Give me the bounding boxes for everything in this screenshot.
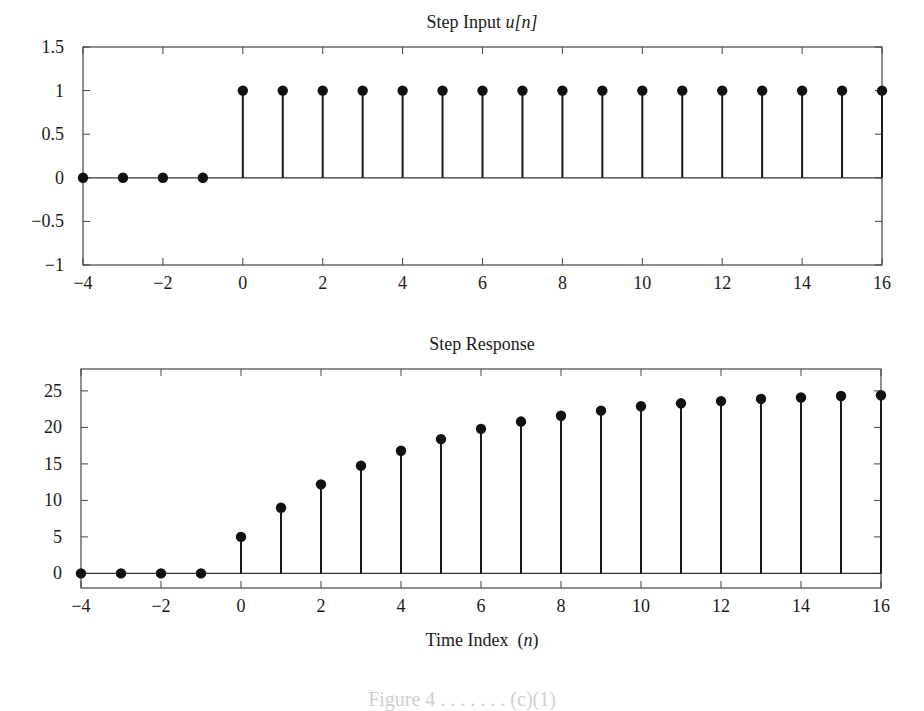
y-tick-label: 25 xyxy=(44,381,62,401)
y-tick-label: 1 xyxy=(55,81,64,101)
stem-marker xyxy=(597,85,607,95)
x-tick-label: −2 xyxy=(151,596,170,616)
stem-marker xyxy=(837,85,847,95)
stem-marker xyxy=(517,85,527,95)
x-tick-label: 8 xyxy=(557,596,566,616)
stem-marker xyxy=(596,405,606,415)
x-axis-label-text: Time Index xyxy=(426,630,509,650)
stem-marker xyxy=(238,85,248,95)
stem-marker xyxy=(796,392,806,402)
stem-marker xyxy=(318,85,328,95)
x-tick-label: 8 xyxy=(558,273,567,293)
stem-marker xyxy=(116,568,126,578)
y-tick-label: 5 xyxy=(53,527,62,547)
stem-marker xyxy=(278,85,288,95)
x-tick-label: 10 xyxy=(632,596,650,616)
stem-marker xyxy=(196,568,206,578)
stem-marker xyxy=(316,479,326,489)
x-axis-label: Time Index (n) xyxy=(332,630,632,651)
top-plot: −4−202468101214161.510.50−0.5−1 xyxy=(31,37,891,293)
x-tick-label: 0 xyxy=(237,596,246,616)
y-tick-label: 15 xyxy=(44,454,62,474)
stem-marker xyxy=(637,85,647,95)
stem-marker xyxy=(436,434,446,444)
stem-marker xyxy=(557,85,567,95)
x-tick-label: 0 xyxy=(238,273,247,293)
stem-marker xyxy=(156,568,166,578)
x-tick-label: 14 xyxy=(792,596,810,616)
x-tick-label: 4 xyxy=(397,596,406,616)
stem-marker xyxy=(677,85,687,95)
x-tick-label: 2 xyxy=(318,273,327,293)
stem-marker xyxy=(476,424,486,434)
stem-marker xyxy=(676,398,686,408)
figure-caption-partial: Figure 4 . . . . . . . (c)(1) xyxy=(0,688,924,711)
stem-marker xyxy=(836,391,846,401)
x-tick-label: −2 xyxy=(153,273,172,293)
x-tick-label: 2 xyxy=(317,596,326,616)
stem-marker xyxy=(716,396,726,406)
stem-marker xyxy=(356,460,366,470)
x-axis-label-var: (n) xyxy=(517,630,538,650)
stem-marker xyxy=(236,532,246,542)
stem-marker xyxy=(516,416,526,426)
stem-marker xyxy=(797,85,807,95)
stem-marker xyxy=(198,173,208,183)
stem-marker xyxy=(397,85,407,95)
y-tick-label: −0.5 xyxy=(31,211,64,231)
y-tick-label: 0.5 xyxy=(42,124,65,144)
x-tick-label: 16 xyxy=(872,596,890,616)
y-tick-label: 0 xyxy=(55,168,64,188)
y-tick-label: 20 xyxy=(44,417,62,437)
y-tick-label: 0 xyxy=(53,563,62,583)
stem-marker xyxy=(158,173,168,183)
bottom-plot: −4−202468101214162520151050 xyxy=(44,369,890,616)
x-tick-label: 14 xyxy=(793,273,811,293)
stem-marker xyxy=(357,85,367,95)
stem-marker xyxy=(556,411,566,421)
x-tick-label: 10 xyxy=(633,273,651,293)
stem-marker xyxy=(118,173,128,183)
stem-marker xyxy=(437,85,447,95)
stem-marker xyxy=(78,173,88,183)
x-tick-label: 6 xyxy=(477,596,486,616)
stem-marker xyxy=(636,401,646,411)
stem-marker xyxy=(876,390,886,400)
y-tick-label: 10 xyxy=(44,490,62,510)
x-tick-label: −4 xyxy=(73,273,92,293)
stem-marker xyxy=(877,85,887,95)
stem-marker xyxy=(717,85,727,95)
stem-marker xyxy=(477,85,487,95)
stem-marker xyxy=(757,85,767,95)
x-tick-label: 16 xyxy=(873,273,891,293)
stem-marker xyxy=(756,394,766,404)
x-tick-label: 4 xyxy=(398,273,407,293)
y-tick-label: 1.5 xyxy=(42,37,65,57)
x-tick-label: 6 xyxy=(478,273,487,293)
x-tick-label: −4 xyxy=(71,596,90,616)
y-tick-label: −1 xyxy=(45,255,64,275)
stem-marker xyxy=(276,503,286,513)
x-tick-label: 12 xyxy=(713,273,731,293)
x-tick-label: 12 xyxy=(712,596,730,616)
stem-marker xyxy=(76,568,86,578)
stem-marker xyxy=(396,446,406,456)
